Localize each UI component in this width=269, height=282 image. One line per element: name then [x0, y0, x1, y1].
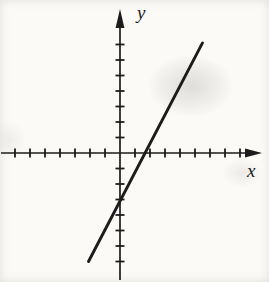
x-axis-label: x	[247, 161, 255, 180]
x-axis-arrowhead	[245, 148, 262, 157]
y-axis-label: y	[137, 3, 145, 22]
coordinate-plane-figure: y x	[0, 0, 269, 282]
y-axis-arrowhead	[116, 9, 125, 28]
plot-svg	[0, 0, 269, 282]
